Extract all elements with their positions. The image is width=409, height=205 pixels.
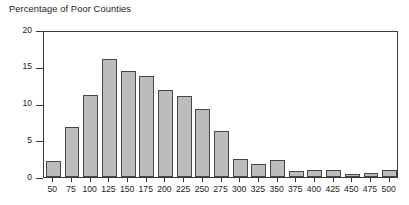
y-axis-tick-label: 20 [22, 25, 32, 35]
histogram-bar [139, 76, 154, 177]
x-axis-tick-label: 475 [363, 184, 377, 194]
chart-title: Percentage of Poor Counties [9, 4, 131, 14]
histogram-bar [121, 71, 136, 177]
y-axis-tick-mark [36, 141, 43, 142]
x-axis-tick-mark [351, 178, 352, 182]
histogram-bar [326, 170, 341, 177]
x-axis-tick-label: 200 [157, 184, 171, 194]
y-axis-tick-mark [36, 68, 43, 69]
histogram-bar [270, 160, 285, 177]
x-axis-tick-label: 425 [325, 184, 339, 194]
y-axis: 05101520 [0, 31, 43, 178]
x-axis-tick-label: 400 [307, 184, 321, 194]
x-axis-tick-mark [52, 178, 53, 182]
histogram-bar [345, 174, 360, 177]
histogram-bar [307, 170, 322, 177]
x-axis-tick-mark [90, 178, 91, 182]
x-axis-tick-mark [146, 178, 147, 182]
x-axis-tick-label: 150 [120, 184, 134, 194]
x-axis-tick-mark [221, 178, 222, 182]
histogram-bar [233, 159, 248, 177]
x-axis-tick-mark [71, 178, 72, 182]
histogram-bar [382, 170, 397, 177]
x-axis-tick-label: 50 [48, 184, 58, 194]
histogram-bar [289, 171, 304, 177]
y-axis-tick-label: 0 [27, 172, 32, 182]
histogram-bar [158, 90, 173, 177]
y-axis-tick-label: 10 [22, 98, 32, 108]
plot-area [43, 31, 398, 178]
histogram-bar [177, 96, 192, 177]
x-axis: 5075100125150175200225250275300325350375… [43, 178, 398, 205]
x-axis-tick-label: 250 [195, 184, 209, 194]
x-axis-tick-mark [370, 178, 371, 182]
x-axis-tick-mark [164, 178, 165, 182]
x-axis-tick-label: 125 [101, 184, 115, 194]
x-axis-tick-label: 300 [232, 184, 246, 194]
x-axis-tick-label: 325 [251, 184, 265, 194]
chart-figure: Percentage of Poor Counties 05101520 507… [0, 0, 409, 205]
histogram-bar [214, 131, 229, 177]
x-axis-tick-mark [333, 178, 334, 182]
x-axis-tick-mark [295, 178, 296, 182]
x-axis-tick-mark [183, 178, 184, 182]
x-axis-tick-label: 275 [213, 184, 227, 194]
histogram-bar [251, 164, 266, 177]
histogram-bar [83, 95, 98, 177]
x-axis-tick-label: 450 [344, 184, 358, 194]
x-axis-tick-label: 225 [176, 184, 190, 194]
y-axis-tick-mark [36, 105, 43, 106]
y-axis-tick-label: 5 [27, 135, 32, 145]
histogram-bar [46, 161, 61, 177]
x-axis-tick-label: 350 [269, 184, 283, 194]
bar-series [44, 32, 397, 177]
x-axis-tick-mark [389, 178, 390, 182]
x-axis-tick-mark [127, 178, 128, 182]
histogram-bar [364, 173, 379, 177]
histogram-bar [102, 59, 117, 177]
x-axis-tick-label: 75 [66, 184, 76, 194]
x-axis-tick-mark [239, 178, 240, 182]
x-axis-tick-mark [314, 178, 315, 182]
x-axis-tick-mark [108, 178, 109, 182]
x-axis-tick-mark [277, 178, 278, 182]
y-axis-tick-mark [36, 178, 43, 179]
x-axis-tick-mark [258, 178, 259, 182]
x-axis-tick-label: 500 [381, 184, 395, 194]
x-axis-tick-label: 375 [288, 184, 302, 194]
histogram-bar [65, 127, 80, 177]
x-axis-tick-label: 100 [83, 184, 97, 194]
y-axis-tick-mark [36, 31, 43, 32]
x-axis-tick-mark [202, 178, 203, 182]
y-axis-tick-label: 15 [22, 61, 32, 71]
x-axis-tick-label: 175 [139, 184, 153, 194]
histogram-bar [195, 109, 210, 177]
